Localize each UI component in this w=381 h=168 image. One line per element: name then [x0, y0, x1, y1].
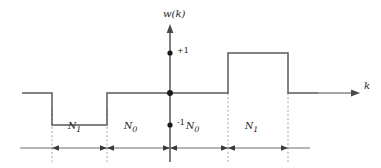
interval-arrow-1-end: [100, 145, 107, 151]
figure-canvas: w(k) k +1 -1 N1 N0 N0 N1: [0, 0, 381, 168]
interval-arrow-4-start: [228, 145, 235, 151]
segment-label-2: N0: [124, 120, 137, 134]
interval-arrow-4-end: [281, 145, 288, 151]
y-axis-label: w(k): [163, 8, 185, 19]
x-axis-label: k: [364, 80, 370, 91]
marker-origin: [167, 90, 173, 96]
segment-label-3-sub: 0: [194, 125, 199, 134]
measurement-axis: [20, 145, 310, 151]
interval-arrow-3-start: [170, 145, 177, 151]
level-label-minus-one: -1: [177, 118, 185, 127]
waveform-plot: [0, 0, 381, 168]
marker-minus-one: [167, 122, 172, 127]
segment-label-1: N1: [68, 120, 81, 134]
segment-label-2-sub: 0: [132, 125, 137, 134]
segment-label-3: N0: [186, 120, 199, 134]
interval-arrow-3-end: [221, 145, 228, 151]
x-axis: [318, 90, 360, 97]
level-label-plus-one: +1: [177, 46, 189, 55]
interval-arrow-1-start: [52, 145, 59, 151]
y-axis-arrowhead: [167, 24, 174, 33]
segment-label-4-sub: 1: [253, 125, 258, 134]
interval-arrow-2-start: [107, 145, 114, 151]
segment-label-1-sub: 1: [76, 125, 81, 134]
marker-plus-one: [167, 50, 172, 55]
x-axis-arrowhead: [351, 90, 360, 97]
segment-label-4: N1: [245, 120, 258, 134]
interval-arrow-2-end: [163, 145, 170, 151]
